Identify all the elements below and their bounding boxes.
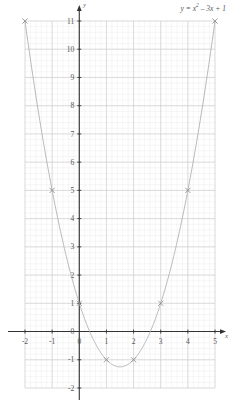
x-tick-label: 2 <box>132 337 136 346</box>
x-tick-label: 4 <box>186 337 190 346</box>
y-tick-label: -1 <box>68 355 74 364</box>
equation-label: y = x2 – 3x + 1 <box>181 2 226 13</box>
x-tick-label: -1 <box>49 337 55 346</box>
grid-minor <box>25 21 215 388</box>
y-axis-arrow <box>77 5 82 11</box>
y-axis-label: y <box>82 2 86 8</box>
y-tick-label: 0 <box>71 327 75 336</box>
y-tick-label: 7 <box>71 130 75 139</box>
y-tick-label: 1 <box>71 299 75 308</box>
y-tick-label: 11 <box>67 17 74 26</box>
grid-major <box>25 21 215 388</box>
x-axis-label: x <box>224 333 228 339</box>
y-tick-label: 9 <box>71 73 75 82</box>
y-tick-label: 10 <box>67 45 75 54</box>
y-tick-label: 3 <box>71 242 75 251</box>
y-tick-label: 5 <box>71 186 75 195</box>
parabola-curve <box>25 21 215 367</box>
equation-equals: = <box>184 4 193 13</box>
x-tick-label: -2 <box>22 337 28 346</box>
equation-rest: – 3x + 1 <box>199 4 226 13</box>
y-tick-label: 8 <box>71 101 75 110</box>
x-tick-label: 0 <box>77 337 81 346</box>
y-tick-label: -2 <box>68 384 74 393</box>
quadratic-graph-plot: xy-2-1012345-2-101234567891011 <box>0 0 232 407</box>
x-tick-label: 1 <box>105 337 109 346</box>
x-tick-label: 3 <box>159 337 163 346</box>
x-tick-label: 5 <box>213 337 217 346</box>
y-tick-label: 6 <box>71 158 75 167</box>
y-tick-label: 4 <box>71 214 75 223</box>
graph-figure: xy-2-1012345-2-101234567891011 y = x2 – … <box>0 0 232 407</box>
